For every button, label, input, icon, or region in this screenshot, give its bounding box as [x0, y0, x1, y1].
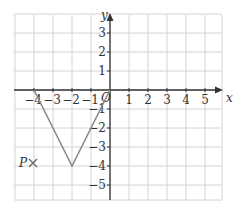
point-p-label: P	[18, 156, 28, 170]
x-tick-label: 2	[144, 93, 152, 107]
x-axis-label: x	[226, 91, 233, 105]
x-tick-label: 4	[182, 93, 190, 107]
grid-lines	[14, 14, 222, 200]
coordinate-grid-diagram: xyO −4−3−2−112345321−1−2−3−4−5 P	[0, 0, 238, 209]
y-tick-label: 3	[98, 26, 106, 40]
x-tick-label: 3	[163, 93, 171, 107]
x-tick-label: −2	[62, 93, 80, 107]
x-tick-label: −3	[43, 93, 61, 107]
y-tick-label: 1	[98, 64, 106, 78]
y-tick-label: 2	[98, 45, 106, 59]
y-tick-label: −5	[88, 178, 106, 192]
x-tick-label: 1	[125, 93, 133, 107]
y-tick-label: −3	[88, 140, 106, 154]
y-axis-label: y	[100, 8, 108, 22]
x-tick-label: 5	[201, 93, 209, 107]
y-tick-label: −4	[88, 159, 106, 173]
